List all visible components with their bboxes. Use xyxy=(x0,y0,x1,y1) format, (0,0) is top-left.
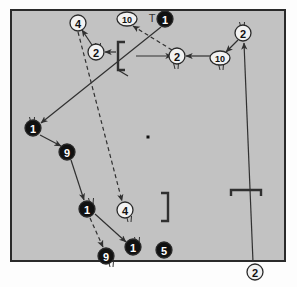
center-dot xyxy=(147,136,150,139)
node-9-left-label: 9 xyxy=(64,147,70,159)
node-2-top-right-label: 2 xyxy=(240,28,246,40)
node-1-mid-left-label: 1 xyxy=(30,123,36,135)
node-5-bottom-label: 5 xyxy=(161,245,167,257)
node-10-right[interactable]: 10 xyxy=(210,51,230,65)
center-mark-layer xyxy=(147,136,150,139)
node-4-lower[interactable]: 4 xyxy=(117,202,133,218)
whisker-node-9-bottom-stroke-b xyxy=(113,261,114,267)
node-2-bottom-outside-label: 2 xyxy=(252,267,258,279)
node-2-upper-left-label: 2 xyxy=(93,47,99,59)
node-4-lower-label: 4 xyxy=(122,205,129,217)
node-9-bottom[interactable]: 9 xyxy=(98,248,114,264)
node-2-center-right[interactable]: 2 xyxy=(169,48,185,64)
node-10-top-label: 10 xyxy=(122,15,132,25)
node-1-mid-left[interactable]: 1 xyxy=(25,120,41,136)
node-9-bottom-label: 9 xyxy=(103,251,109,263)
node-1-lower-left-label: 1 xyxy=(84,204,90,216)
node-1-lower-left[interactable]: 1 xyxy=(79,201,95,217)
node-4-top-left[interactable]: 4 xyxy=(70,15,86,31)
tactics-diagram-svg: T 42101210219149152 xyxy=(0,0,297,287)
node-2-center-right-label: 2 xyxy=(174,51,180,63)
node-2-upper-left[interactable]: 2 xyxy=(88,44,104,60)
node-1-top[interactable]: 1 xyxy=(157,11,173,27)
diagram-root: T 42101210219149152 xyxy=(0,0,297,287)
node-10-right-label: 10 xyxy=(215,54,225,64)
node-4-top-left-label: 4 xyxy=(75,18,82,30)
node-9-left[interactable]: 9 xyxy=(59,144,75,160)
node-1-bottom-label: 1 xyxy=(130,242,136,254)
tick-top-t-label: T xyxy=(149,12,156,24)
node-2-bottom-outside[interactable]: 2 xyxy=(247,264,263,280)
node-10-top[interactable]: 10 xyxy=(117,12,137,26)
tick-mark-layer: T xyxy=(149,12,156,24)
tick-top-t: T xyxy=(149,12,156,24)
node-1-top-label: 1 xyxy=(162,14,168,26)
node-2-top-right[interactable]: 2 xyxy=(235,25,251,41)
node-1-bottom[interactable]: 1 xyxy=(125,239,141,255)
whisker-node-4-lower-stroke-b xyxy=(131,216,132,222)
node-5-bottom[interactable]: 5 xyxy=(156,242,172,258)
